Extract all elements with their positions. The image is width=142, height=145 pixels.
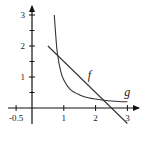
x-tick-label: 1 (62, 113, 67, 123)
function-labels: fg (88, 68, 131, 99)
x-tick-label: -0.5 (9, 113, 24, 123)
x-tick-label: 2 (93, 113, 98, 123)
label-f: f (88, 68, 93, 82)
series-g-curve (54, 15, 127, 102)
y-tick-label: 2 (21, 41, 26, 51)
y-tick-label: 3 (21, 10, 26, 20)
label-g: g (124, 85, 130, 99)
y-ticks: 123 (21, 10, 36, 93)
y-tick-label: 1 (21, 72, 26, 82)
function-plot: -0.5123 123 fg (0, 0, 142, 145)
series-f-curve (48, 46, 128, 124)
